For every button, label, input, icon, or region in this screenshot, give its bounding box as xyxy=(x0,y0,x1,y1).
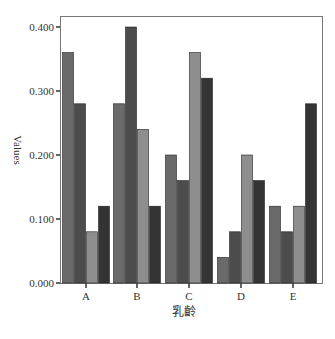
bar-B-series-4 xyxy=(150,206,161,283)
bar-C-series-1 xyxy=(166,155,177,283)
bar-B-series-2 xyxy=(126,27,137,283)
y-tick-label: 0.100 xyxy=(29,213,54,225)
bar-C-series-3 xyxy=(190,53,201,283)
y-tick-label: 0.400 xyxy=(29,21,54,33)
x-axis: ABCDE xyxy=(82,283,297,302)
bar-E-series-3 xyxy=(294,206,305,283)
y-axis-title: Values xyxy=(12,135,24,164)
bar-D-series-3 xyxy=(242,155,253,283)
bar-E-series-1 xyxy=(270,206,281,283)
y-tick-label: 0.200 xyxy=(29,149,54,161)
x-axis-title: 乳齡 xyxy=(172,305,196,319)
bar-A-series-4 xyxy=(99,206,110,283)
x-tick-label: D xyxy=(237,290,245,302)
bar-D-series-1 xyxy=(218,257,229,283)
bar-A-series-2 xyxy=(75,104,86,283)
bar-A-series-1 xyxy=(63,53,74,283)
x-tick-label: E xyxy=(290,290,297,302)
bar-A-series-3 xyxy=(87,232,98,283)
x-tick-label: B xyxy=(133,290,140,302)
bar-chart: 0.0000.1000.2000.3000.400 ABCDE Values 乳… xyxy=(0,0,335,339)
bar-D-series-4 xyxy=(254,181,265,283)
x-tick-label: C xyxy=(185,290,192,302)
bar-C-series-4 xyxy=(202,78,213,283)
bar-E-series-4 xyxy=(306,104,317,283)
bar-B-series-3 xyxy=(138,129,149,283)
y-axis: 0.0000.1000.2000.3000.400 xyxy=(29,21,60,289)
bar-D-series-2 xyxy=(230,232,241,283)
y-tick-label: 0.000 xyxy=(29,277,54,289)
y-tick-label: 0.300 xyxy=(29,85,54,97)
bar-B-series-1 xyxy=(114,104,125,283)
x-tick-label: A xyxy=(82,290,90,302)
bar-E-series-2 xyxy=(282,232,293,283)
bar-C-series-2 xyxy=(178,181,189,283)
